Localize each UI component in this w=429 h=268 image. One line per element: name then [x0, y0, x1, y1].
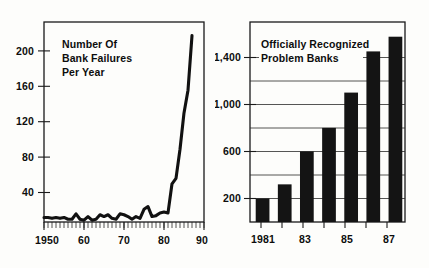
chart-title-line-1: Number Of	[62, 38, 118, 50]
bar-1984	[322, 128, 336, 222]
bar-1987	[389, 37, 403, 222]
bar-series	[256, 37, 403, 222]
chart-title-line-3: Per Year	[62, 66, 105, 78]
y-tick-label-1400: 1,400	[215, 51, 241, 63]
y-tick-label-1000: 1,000	[215, 98, 241, 110]
x-tick-label-83: 83	[299, 233, 311, 245]
bar-1982	[278, 184, 292, 222]
y-tick-label-200: 200	[16, 45, 34, 57]
chart-title-line-1: Officially Recognized	[261, 38, 369, 50]
x-tick-label-1981: 1981	[251, 233, 275, 245]
x-tick-label-1970: 70	[118, 234, 130, 246]
bar-1986	[366, 51, 380, 222]
x-axis-ticks	[261, 222, 387, 228]
bar-1985	[344, 93, 358, 222]
bank-failures-chart: 200 160 120 80 40	[0, 0, 215, 268]
bank-failures-svg: 200 160 120 80 40	[0, 0, 215, 268]
x-tick-label-85: 85	[341, 233, 353, 245]
x-tick-label-1990: 90	[196, 234, 208, 246]
chart-title-line-2: Bank Failures	[62, 52, 132, 64]
problem-banks-svg: 1,400 1,000 600 200 1981 83 85 87	[215, 0, 429, 268]
problem-banks-chart: 1,400 1,000 600 200 1981 83 85 87	[215, 0, 429, 268]
y-tick-label-120: 120	[16, 115, 34, 127]
x-tick-label-87: 87	[383, 233, 395, 245]
y-tick-label-600: 600	[223, 145, 241, 157]
x-tick-label-1960: 60	[78, 234, 90, 246]
y-tick-label-200: 200	[223, 192, 241, 204]
chart-title-line-2: Problem Banks	[261, 52, 339, 64]
x-tick-label-1950: 1950	[35, 234, 59, 246]
y-tick-label-80: 80	[22, 151, 34, 163]
bar-1983	[300, 151, 314, 222]
x-tick-label-1980: 80	[158, 234, 170, 246]
two-panel-figure: 200 160 120 80 40	[0, 0, 429, 268]
y-tick-label-40: 40	[22, 186, 34, 198]
bar-1981	[256, 198, 270, 222]
y-tick-label-160: 160	[16, 80, 34, 92]
